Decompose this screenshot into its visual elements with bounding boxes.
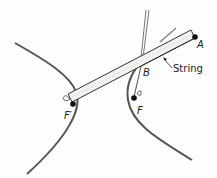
hyperbola-left-branch <box>15 43 77 174</box>
label-a: A <box>197 40 204 50</box>
diagram-canvas <box>0 0 217 178</box>
label-f: F <box>137 106 143 116</box>
tack-f-icon <box>137 91 141 96</box>
hyperbola-diagram: A B String F′ F <box>0 0 217 178</box>
label-b: B <box>143 68 150 78</box>
point-f-dot <box>131 95 137 101</box>
label-f-prime: F′ <box>64 111 72 121</box>
label-string: String <box>173 64 203 74</box>
point-f-prime-dot <box>70 101 76 107</box>
pencil <box>141 10 149 58</box>
string-pointer-arrow <box>163 57 172 68</box>
